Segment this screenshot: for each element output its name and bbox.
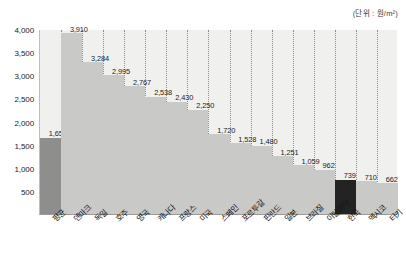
bar-slot [377,30,398,214]
bar-slot [272,30,293,214]
bars-layer: 1,6513,9103,2842,9952,7672,5382,4302,250… [40,30,397,214]
unit-note: (단위 : 원/m²) [353,7,398,18]
y-axis-tick: 1,000 [14,164,34,173]
y-axis-tick: 2,000 [14,118,34,127]
y-axis-tick: 500 [21,187,34,196]
y-axis-tick: 1,500 [14,141,34,150]
bar-slot [103,30,124,214]
bar-프랑스[interactable] [166,102,187,214]
y-axis-tick: 3,000 [14,72,34,81]
bar-value-label: 710 [365,173,377,182]
bar-slot [208,30,229,214]
bar-slot [293,30,314,214]
bar-slot [187,30,208,214]
y-axis: 4,0003,5003,0002,5002,0001,5001,000500 [0,30,37,215]
x-axis: 평균덴마크독일호주영국캐나다프랑스미국스페인포르투갈핀란드일본브라질이탈리아한국… [39,216,397,261]
y-axis-tick: 3,500 [14,49,34,58]
bar-slot [145,30,166,214]
bar-value-label: 662 [386,175,398,184]
bar-slot [356,30,377,214]
bar-slot [230,30,251,214]
bar-slot [335,30,356,214]
bar-slot [61,30,82,214]
bar-slot [251,30,272,214]
bar-캐나다[interactable] [145,97,166,214]
bar-slot [124,30,145,214]
plot-area: 1,6513,9103,2842,9952,7672,5382,4302,250… [39,30,397,215]
bar-value-label: 962 [323,161,335,170]
bar-스페인[interactable] [208,134,229,214]
y-axis-tick: 4,000 [14,26,34,35]
bar-평균[interactable] [40,138,61,214]
bar-덴마크[interactable] [61,33,82,214]
y-axis-tick: 2,500 [14,95,34,104]
bar-slot [40,30,61,214]
bar-slot [166,30,187,214]
bar-value-label: 739 [344,171,356,180]
bar-chart: (단위 : 원/m²) 4,0003,5003,0002,5002,0001,5… [0,0,406,261]
bar-slot [314,30,335,214]
bar-독일[interactable] [82,62,103,214]
bar-호주[interactable] [103,75,124,214]
bar-미국[interactable] [187,110,208,214]
bar-영국[interactable] [124,86,145,214]
